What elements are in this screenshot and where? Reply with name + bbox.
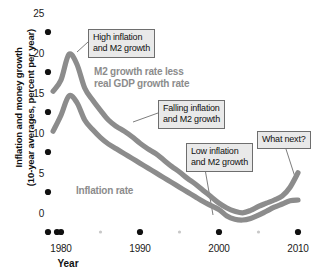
annotation-high-inflation: High inflation and M2 growth	[88, 29, 155, 58]
annotation-falling-inflation-line1: Falling inflation	[163, 103, 220, 113]
series-label-m2-growth: M2 growth rate less real GDP growth rate	[94, 66, 189, 90]
leader-line-falling-inflation	[133, 113, 158, 122]
xtick-label-1990: 1990	[120, 243, 160, 254]
y-axis-title: Inflation and money growth (10-year aver…	[13, 28, 36, 188]
xtick-label-2000: 2000	[199, 243, 239, 254]
ytick-dot-25	[45, 29, 51, 35]
xtick-dot-2010	[295, 229, 301, 235]
leader-line-high-inflation	[77, 42, 88, 52]
annotation-low-inflation: Low inflation and M2 growth	[186, 143, 253, 172]
annotation-falling-inflation-line2: and M2 growth	[163, 114, 220, 124]
ytick-label-0: 0	[18, 208, 44, 219]
series-label-m2-growth-line2: real GDP growth rate	[94, 78, 189, 89]
xtick-label-2010: 2010	[278, 243, 317, 254]
series-label-inflation-rate: Inflation rate	[76, 185, 133, 197]
series-label-inflation-rate-line1: Inflation rate	[76, 185, 133, 196]
ytick-dot-15	[45, 109, 51, 115]
annotation-falling-inflation: Falling inflation and M2 growth	[158, 100, 225, 129]
series-label-m2-growth-line1: M2 growth rate less	[94, 66, 184, 77]
xtick-label-1980: 1980	[41, 243, 81, 254]
x-axis-title: Year	[45, 258, 91, 269]
origin-dot	[54, 229, 60, 235]
annotation-what-next-line1: What next?	[262, 134, 306, 144]
ytick-dot-5	[45, 189, 51, 195]
annotation-what-next: What next?	[257, 131, 311, 149]
xtick-dot-2000	[216, 229, 222, 235]
ytick-dot-0	[45, 229, 51, 235]
y-axis-title-line2: (10-year averages, percent per year)	[24, 29, 35, 186]
chart-container: 25 20 15 10 5 0 1980 1990 2000 2010 Infl…	[0, 0, 317, 279]
xtick-minor-dot-1995	[178, 230, 181, 233]
annotation-low-inflation-line2: and M2 growth	[191, 157, 248, 167]
xtick-minor-dot-1985	[99, 230, 102, 233]
annotation-low-inflation-line1: Low inflation	[191, 146, 238, 156]
annotation-high-inflation-line1: High inflation	[93, 32, 142, 42]
annotation-high-inflation-line2: and M2 growth	[93, 43, 150, 53]
xtick-dot-1990	[137, 229, 143, 235]
xtick-minor-dot-2005	[257, 230, 260, 233]
ytick-label-25: 25	[18, 8, 44, 19]
ytick-dot-20	[45, 69, 51, 75]
ytick-dot-10	[45, 149, 51, 155]
y-axis-title-line1: Inflation and money growth	[13, 47, 24, 167]
